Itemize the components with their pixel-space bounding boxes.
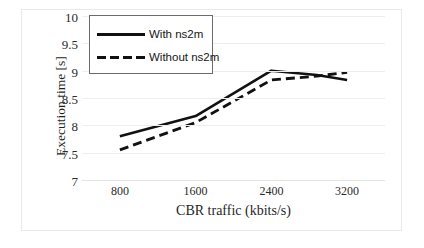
y-tick-label: 9: [38, 66, 78, 79]
x-tick-label: 2400: [259, 184, 283, 199]
series-line-with-ns2m: [120, 71, 347, 137]
legend-item-without-ns2m: Without ns2m: [97, 47, 219, 67]
x-axis-title: CBR traffic (kbits/s): [82, 203, 385, 219]
y-tick-label: 10: [38, 11, 78, 24]
x-tick-label: 800: [111, 184, 129, 199]
y-tick-label: 7.5: [38, 148, 78, 161]
chart-legend: With ns2m Without ns2m: [89, 15, 213, 74]
legend-label: With ns2m: [149, 28, 203, 40]
y-tick-label: 7: [38, 175, 78, 188]
x-axis-tick-labels: 800 1600 2400 3200: [82, 184, 385, 202]
gridline: [82, 125, 385, 126]
y-tick-label: 8: [38, 120, 78, 133]
x-axis-baseline: [82, 180, 385, 181]
gridline: [82, 153, 385, 154]
y-tick-label: 8.5: [38, 93, 78, 106]
legend-label: Without ns2m: [149, 51, 219, 63]
legend-dashed-line-icon: [97, 51, 145, 63]
y-tick-label: 9.5: [38, 38, 78, 51]
x-tick-label: 1600: [184, 184, 208, 199]
gridline: [82, 98, 385, 99]
series-line-without-ns2m: [120, 72, 347, 150]
legend-solid-line-icon: [97, 28, 145, 40]
y-axis-tick-labels: 10 9.5 9 8.5 8 7.5 7: [34, 16, 78, 180]
legend-item-with-ns2m: With ns2m: [97, 24, 203, 44]
x-tick-label: 3200: [335, 184, 359, 199]
line-chart: Execution time [s] 10 9.5 9 8.5 8 7.5 7 …: [0, 0, 424, 248]
